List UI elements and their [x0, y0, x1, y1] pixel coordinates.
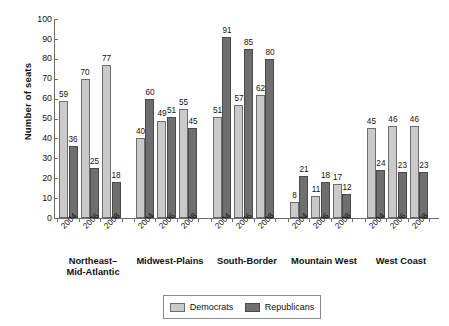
legend-label-republicans: Republicans [265, 302, 315, 312]
bar-west-coast-2004-republicans [376, 170, 385, 218]
bar-value-label: 51 [163, 107, 180, 115]
x-group-label-west-coast: West Coast [351, 256, 449, 267]
x-tick-mark [177, 218, 178, 222]
bar-south-border-2008-republicans [265, 59, 274, 218]
x-tick-mark [408, 218, 409, 222]
x-tick-mark [155, 218, 156, 222]
y-tick-mark-10 [54, 198, 58, 199]
plot-area: 5936702577184060495155455191578562808211… [55, 19, 439, 218]
y-tick-label-50: 50 [18, 114, 52, 123]
x-tick-mark [232, 218, 233, 222]
bar-value-label: 12 [338, 184, 355, 192]
bar-west-coast-2008-democrats [410, 126, 419, 218]
y-tick-mark-80 [54, 59, 58, 60]
bar-west-coast-2006-democrats [388, 126, 397, 218]
x-tick-mark [288, 218, 289, 222]
bar-value-label: 70 [77, 69, 94, 77]
bar-northeast-mid-atlantic-2004-democrats [59, 101, 68, 218]
bar-midwest-plains-2008-republicans [188, 128, 197, 218]
x-tick-mark [309, 218, 310, 222]
bar-value-label: 25 [86, 158, 103, 166]
y-tick-label-90: 90 [18, 35, 52, 44]
x-tick-mark [429, 218, 430, 222]
bar-south-border-2004-republicans [222, 37, 231, 218]
x-tick-mark [386, 218, 387, 222]
bar-west-coast-2008-republicans [419, 172, 428, 218]
y-tick-mark-50 [54, 119, 58, 120]
y-tick-mark-20 [54, 178, 58, 179]
bar-northeast-mid-atlantic-2008-democrats [102, 65, 111, 218]
bar-south-border-2006-republicans [244, 49, 253, 218]
bar-value-label: 23 [394, 162, 411, 170]
bar-value-label: 17 [329, 174, 346, 182]
bar-value-label: 60 [141, 89, 158, 97]
bar-northeast-mid-atlantic-2004-republicans [69, 146, 78, 218]
y-tick-label-0: 0 [18, 214, 52, 223]
legend-swatch-republicans [245, 303, 260, 312]
bar-value-label: 77 [98, 55, 115, 63]
x-tick-mark [122, 218, 123, 222]
bar-south-border-2008-democrats [256, 95, 265, 218]
y-tick-mark-40 [54, 138, 58, 139]
legend: Democrats Republicans [163, 295, 321, 319]
x-tick-mark [365, 218, 366, 222]
x-tick-mark [352, 218, 353, 222]
group-label-line: Mid-Atlantic [43, 267, 143, 278]
x-tick-mark [134, 218, 135, 222]
bar-value-label: 91 [218, 27, 235, 35]
bar-value-label: 46 [384, 116, 401, 124]
bar-value-label: 36 [65, 136, 82, 144]
legend-item-republicans: Republicans [245, 302, 315, 312]
y-tick-mark-70 [54, 79, 58, 80]
legend-swatch-democrats [170, 303, 185, 312]
y-tick-label-70: 70 [18, 74, 52, 83]
x-tick-mark [100, 218, 101, 222]
y-tick-mark-60 [54, 99, 58, 100]
bar-west-coast-2004-democrats [367, 128, 376, 218]
bar-midwest-plains-2006-democrats [157, 121, 166, 219]
x-tick-mark [254, 218, 255, 222]
y-tick-mark-100 [54, 19, 58, 20]
bar-value-label: 46 [406, 116, 423, 124]
bar-northeast-mid-atlantic-2006-republicans [90, 168, 99, 218]
y-tick-label-60: 60 [18, 94, 52, 103]
x-tick-mark [331, 218, 332, 222]
bar-value-label: 24 [372, 160, 389, 168]
bar-value-label: 59 [55, 91, 72, 99]
y-tick-mark-90 [54, 39, 58, 40]
bar-value-label: 80 [261, 49, 278, 57]
bar-value-label: 55 [175, 99, 192, 107]
legend-item-democrats: Democrats [170, 302, 234, 312]
y-tick-label-40: 40 [18, 134, 52, 143]
bar-south-border-2006-democrats [234, 105, 243, 218]
x-tick-mark [79, 218, 80, 222]
bar-south-border-2004-democrats [213, 117, 222, 218]
bar-northeast-mid-atlantic-2006-democrats [81, 79, 90, 218]
y-tick-label-20: 20 [18, 174, 52, 183]
bar-chart: Number of seats 0102030405060708090100 5… [0, 0, 449, 326]
x-tick-mark [275, 218, 276, 222]
group-label-line: West Coast [351, 256, 449, 267]
x-tick-mark [211, 218, 212, 222]
bar-value-label: 45 [184, 118, 201, 126]
y-tick-label-10: 10 [18, 194, 52, 203]
bar-west-coast-2006-republicans [398, 172, 407, 218]
bar-value-label: 23 [415, 162, 432, 170]
y-tick-label-100: 100 [18, 15, 52, 24]
bar-value-label: 45 [363, 118, 380, 126]
bar-value-label: 18 [108, 172, 125, 180]
y-tick-mark-30 [54, 158, 58, 159]
bar-value-label: 21 [295, 166, 312, 174]
bar-midwest-plains-2006-republicans [167, 117, 176, 218]
legend-label-democrats: Democrats [190, 302, 234, 312]
bar-midwest-plains-2004-democrats [136, 138, 145, 218]
y-tick-label-80: 80 [18, 54, 52, 63]
x-tick-mark [57, 218, 58, 222]
y-tick-label-30: 30 [18, 154, 52, 163]
bar-value-label: 85 [240, 39, 257, 47]
x-tick-mark [198, 218, 199, 222]
